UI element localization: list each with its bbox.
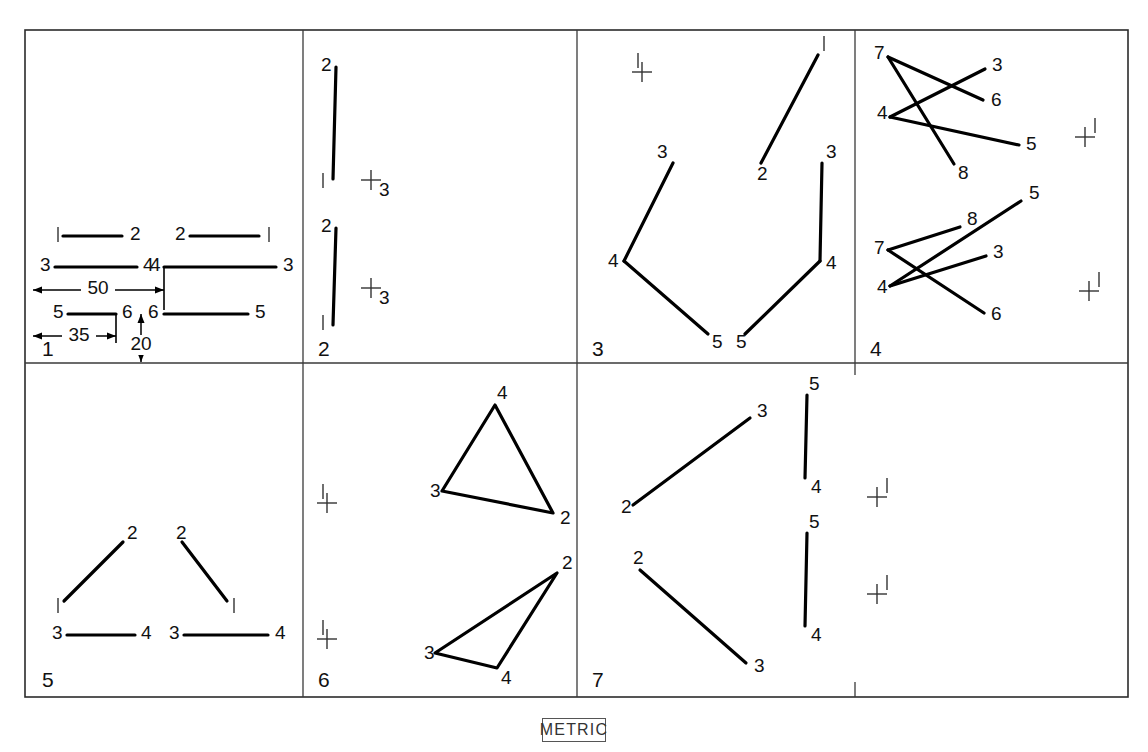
seg-4-5-left-end-label: 5 <box>712 331 723 352</box>
metric-note-box: METRIC <box>542 718 606 742</box>
seg-4-5-left <box>624 261 708 334</box>
seg-3-4-right-end-label: 4 <box>275 622 286 643</box>
panel-4-content: 768435786435 <box>874 42 1099 324</box>
seg-1-2-left <box>64 542 123 601</box>
triangle-lower-vertex-2-label: 3 <box>424 642 435 663</box>
seg-2-3-lower-start-label: 2 <box>633 547 644 568</box>
panel-2-content: 2233 <box>321 54 390 330</box>
seg-4-5-upper <box>890 117 1019 145</box>
seg-7-6-upper-start-label: 7 <box>874 42 885 63</box>
seg-3-4-left-end-label: 4 <box>141 622 152 643</box>
seg-2-1-right-start-label: 2 <box>176 522 187 543</box>
panel-7-number: 7 <box>592 668 604 691</box>
seg-4-3-upper-end-label: 3 <box>992 54 1003 75</box>
panel-6-number: 6 <box>318 668 330 691</box>
triangle-lower-vertex-1-label: 4 <box>501 667 512 688</box>
seg-2-1-upper-start-label: 2 <box>321 54 332 75</box>
seg-2-1-right <box>182 542 227 601</box>
seg-2-1-lower <box>333 228 336 325</box>
dim-50-arrow-right <box>155 287 164 294</box>
seg-3-4-left-start-label: 3 <box>52 622 63 643</box>
seg-4-5-right-end-label: 5 <box>736 331 747 352</box>
dim-50-text: 50 <box>87 277 108 298</box>
seg-2-3-upper-start-label: 2 <box>621 496 632 517</box>
seg-3-4-left-start-label: 3 <box>657 141 668 162</box>
panel-1-number: 1 <box>42 337 54 360</box>
seg-2-3-lower-end-label: 3 <box>754 655 765 676</box>
dim-20-text: 20 <box>130 333 151 354</box>
triangle-upper <box>442 405 553 513</box>
point-mark-3-lower-label: 3 <box>379 287 390 308</box>
seg-5-4-upper <box>805 395 807 478</box>
seg-7-8-lower-end-label: 8 <box>967 208 978 229</box>
seg-5-4-lower-start-label: 5 <box>809 511 820 532</box>
seg-2-1-right-start-label: 2 <box>175 223 186 244</box>
seg-7-6-lower-end-label: 6 <box>991 303 1002 324</box>
seg-3-4-right-start-label: 3 <box>826 141 837 162</box>
seg-1-2 <box>761 55 818 163</box>
seg-7-8-lower-start-label: 7 <box>874 237 885 258</box>
dim-35-arrow-left <box>33 333 42 340</box>
seg-1-2-end-label: 2 <box>757 163 768 184</box>
panel-5-number: 5 <box>42 668 54 691</box>
point-mark-3-upper-label: 3 <box>379 179 390 200</box>
seg-5-4-upper-start-label: 5 <box>809 373 820 394</box>
seg-7-6-upper-end-label: 6 <box>991 89 1002 110</box>
seg-6-5-right-end-label: 5 <box>255 301 266 322</box>
seg-3-4-right-end-label: 4 <box>826 252 837 273</box>
panel-4-number: 4 <box>870 337 882 360</box>
seg-3-4-left-end-label: 4 <box>608 250 619 271</box>
seg-4-5-lower-end-label: 5 <box>1029 182 1040 203</box>
triangle-upper-vertex-0-label: 4 <box>497 382 508 403</box>
seg-2-1-upper <box>333 67 336 179</box>
panel-7-content: 23235454 <box>621 373 887 676</box>
panel-3-number: 3 <box>592 337 604 360</box>
seg-4-3-right-end-label: 3 <box>283 254 294 275</box>
seg-5-6-left-start-label: 5 <box>53 301 64 322</box>
triangle-lower-vertex-0-label: 2 <box>562 552 573 573</box>
seg-4-3-lower-start-label: 4 <box>877 276 888 297</box>
seg-2-3-upper-end-label: 3 <box>757 400 768 421</box>
panel-1-content: 2234435665503520 <box>33 223 294 362</box>
seg-3-4-left <box>624 163 673 261</box>
seg-3-4-right <box>820 163 822 261</box>
seg-1-2-left-end-label: 2 <box>127 522 138 543</box>
metric-note-label: METRIC <box>540 722 609 738</box>
panel-3-content: 2345345 <box>608 36 837 352</box>
seg-4-3-upper-start-label: 4 <box>877 102 888 123</box>
seg-2-1-lower-start-label: 2 <box>321 215 332 236</box>
seg-6-5-right-start-label: 6 <box>148 301 159 322</box>
panel-numbers: 1234567 <box>42 337 882 691</box>
triangle-upper-vertex-2-label: 3 <box>430 480 441 501</box>
seg-2-3-upper <box>633 418 750 505</box>
seg-5-4-upper-end-label: 4 <box>811 476 822 497</box>
seg-3-4-right-start-label: 3 <box>169 622 180 643</box>
seg-4-3-lower-end-label: 3 <box>993 241 1004 262</box>
dim-50-arrow-left <box>33 287 42 294</box>
dim-35-text: 35 <box>68 324 89 345</box>
seg-1-2-left-end-label: 2 <box>130 223 141 244</box>
drawing-canvas: 2234435665503520 2233 2345345 7684357864… <box>0 0 1148 752</box>
seg-4-5-right <box>745 261 820 334</box>
triangle-lower <box>435 573 557 668</box>
panel-5-content: 223434 <box>52 522 286 643</box>
seg-4-5-upper-end-label: 5 <box>1026 133 1037 154</box>
panel-dividers <box>25 30 1128 697</box>
seg-4-3-right-start-label: 4 <box>150 254 161 275</box>
panel-6-content: 423243 <box>317 382 573 688</box>
seg-5-4-lower <box>805 533 807 626</box>
seg-7-8-upper-end-label: 8 <box>958 162 969 183</box>
seg-3-4-left-start-label: 3 <box>40 254 51 275</box>
panel-2-number: 2 <box>318 337 330 360</box>
triangle-upper-vertex-1-label: 2 <box>560 507 571 528</box>
seg-5-4-lower-end-label: 4 <box>811 624 822 645</box>
drawing-sheet: 2234435665503520 2233 2345345 7684357864… <box>0 0 1148 752</box>
seg-2-3-lower <box>640 570 746 663</box>
seg-5-6-left-end-label: 6 <box>122 301 133 322</box>
dim-20-arrow-top <box>138 314 145 323</box>
dim-35-arrow-right <box>107 333 116 340</box>
